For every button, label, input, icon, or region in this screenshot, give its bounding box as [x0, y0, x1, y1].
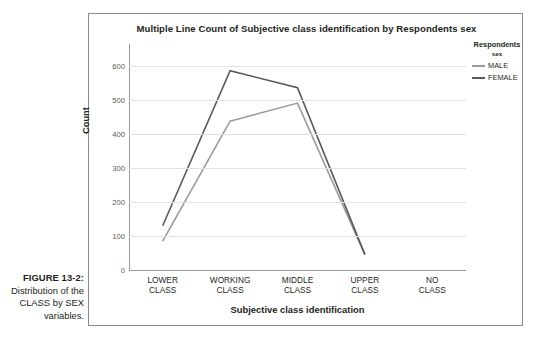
series-line-female	[163, 71, 365, 255]
legend-label: MALE	[488, 61, 508, 70]
legend-item-female[interactable]: FEMALE	[472, 73, 522, 82]
x-tick-label: UPPER CLASS	[351, 275, 380, 295]
x-tick-label: MIDDLE CLASS	[282, 275, 313, 295]
y-tick-label: 400	[99, 129, 125, 138]
gridline	[129, 236, 466, 237]
legend-entries: MALEFEMALE	[472, 61, 522, 82]
legend-item-male[interactable]: MALE	[472, 61, 522, 70]
gridline	[129, 134, 466, 135]
legend: Respondents sex MALEFEMALE	[472, 41, 522, 82]
y-axis-title: Count	[81, 107, 91, 134]
x-tick-label: WORKING CLASS	[210, 275, 251, 295]
x-axis-title: Subjective class identification	[129, 304, 466, 315]
legend-swatch-icon	[472, 77, 485, 79]
gridline	[129, 100, 466, 101]
chart-frame: Multiple Line Count of Subjective class …	[88, 13, 523, 326]
figure-label: FIGURE 13-2:	[23, 272, 84, 283]
legend-title: Respondents sex	[472, 41, 522, 58]
gridline	[129, 168, 466, 169]
plot-area	[129, 52, 466, 270]
series-lines	[129, 52, 466, 270]
y-tick-label: 600	[99, 61, 125, 70]
gridline	[129, 66, 466, 67]
y-axis-ticks: 0100200300400500600	[93, 52, 125, 270]
y-tick-label: 0	[99, 266, 125, 275]
y-tick-label: 100	[99, 231, 125, 240]
legend-title-text: Respondents	[474, 40, 521, 49]
legend-subtitle-text: sex	[472, 50, 522, 59]
figure-caption: FIGURE 13-2: Distribution of the CLASS b…	[2, 272, 84, 322]
x-axis-ticks: LOWER CLASSWORKING CLASSMIDDLE CLASSUPPE…	[129, 275, 466, 301]
figure-container: FIGURE 13-2: Distribution of the CLASS b…	[0, 0, 553, 345]
gridline	[129, 202, 466, 203]
legend-label: FEMALE	[488, 73, 518, 82]
y-tick-label: 200	[99, 197, 125, 206]
y-tick-label: 300	[99, 163, 125, 172]
figure-caption-text: Distribution of the CLASS by SEX variabl…	[11, 285, 84, 321]
gridline	[129, 270, 466, 271]
x-tick-label: NO CLASS	[415, 275, 449, 295]
chart-title: Multiple Line Count of Subjective class …	[89, 23, 524, 34]
legend-swatch-icon	[472, 65, 485, 67]
y-tick-label: 500	[99, 95, 125, 104]
x-tick-label: LOWER CLASS	[147, 275, 177, 295]
